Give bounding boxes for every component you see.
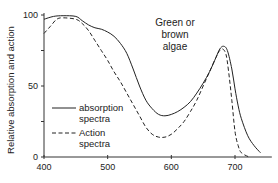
annotation-line-3: algae [163, 41, 188, 52]
annotation-line-2: brown [161, 29, 188, 40]
annotation-line-1: Green or [155, 17, 195, 28]
legend-label-action-1: Action [79, 127, 105, 138]
legend-label-absorption-1: absorption [79, 102, 123, 113]
series-line-action-spectra [44, 18, 249, 157]
y-tick-label: 100 [23, 10, 38, 20]
y-axis-label: Relative absorption and action [5, 26, 16, 154]
legend: absorption spectra Action spectra [52, 102, 123, 149]
legend-label-action-2: spectra [79, 138, 111, 149]
x-tick-label: 500 [100, 162, 115, 172]
series-line-absorption-spectra [44, 16, 260, 153]
x-tick-label: 400 [36, 162, 51, 172]
absorption-action-chart: 400500600700050100 Relative absorption a… [0, 0, 278, 183]
y-tick-label: 50 [28, 81, 38, 91]
series-layer [44, 16, 260, 157]
legend-label-absorption-2: spectra [79, 113, 111, 124]
x-tick-label: 600 [164, 162, 179, 172]
axes: 400500600700050100 [23, 10, 272, 172]
y-tick-label: 0 [33, 152, 38, 162]
annotation: Green or brown algae [155, 17, 195, 52]
x-tick-label: 700 [227, 162, 242, 172]
